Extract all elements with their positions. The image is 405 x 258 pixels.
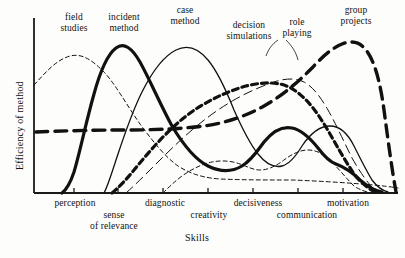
x-axis-title: Skills xyxy=(185,232,209,243)
curve-label-incident-method: incident method xyxy=(100,12,148,33)
curve-label-group-projects-line1: group xyxy=(345,5,368,15)
curve-label-role-playing-line1: role xyxy=(289,17,304,27)
curve-label-field-studies-line1: field xyxy=(65,12,83,22)
x-tick-label-creativity: creativity xyxy=(181,210,237,221)
curve-label-decision-simulations-line1: decision xyxy=(233,20,265,30)
chart-figure: field studies incident method case metho… xyxy=(0,0,405,258)
x-tick-label-of-relevance: of relevance xyxy=(82,221,146,232)
curve-label-case-method: case method xyxy=(163,5,207,26)
curve-label-case-method-line2: method xyxy=(170,16,199,26)
curve-label-incident-method-line1: incident xyxy=(108,12,139,22)
curve-label-field-studies-line2: studies xyxy=(60,23,87,33)
curve-label-incident-method-line2: method xyxy=(109,23,138,33)
curve-label-decision-simulations-line2: simulations xyxy=(227,31,272,41)
curve-label-case-method-line1: case xyxy=(177,5,194,15)
x-tick-label-diagnostic: diagnostic xyxy=(136,198,194,209)
curve-label-role-playing-line2: playing xyxy=(282,28,311,38)
x-tick-label-motivation: motivation xyxy=(318,198,378,209)
x-tick-label-communication: communication xyxy=(267,210,347,221)
curve-label-group-projects: group projects xyxy=(332,5,380,26)
y-axis-label: Efficiency of method xyxy=(14,81,25,170)
x-tick-label-perception: perception xyxy=(45,198,105,209)
curve-label-role-playing: role playing xyxy=(277,17,317,38)
x-tick-label-decisiveness: decisiveness xyxy=(225,198,291,209)
curve-label-group-projects-line2: projects xyxy=(341,16,372,26)
x-tick-label-sense: sense xyxy=(93,210,135,221)
curve-label-decision-simulations: decision simulations xyxy=(218,20,280,41)
curve-label-field-studies: field studies xyxy=(53,12,95,33)
